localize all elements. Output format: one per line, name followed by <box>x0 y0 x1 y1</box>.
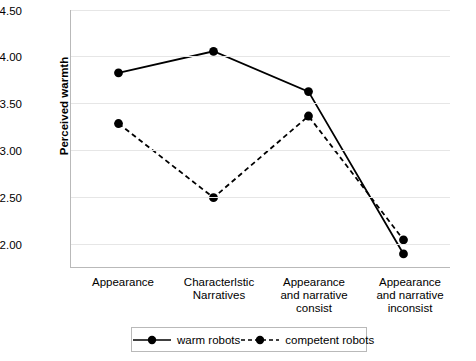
gridline-2.00 <box>71 244 450 245</box>
y-tick-label-2.50: 2.50 <box>0 193 22 203</box>
gridline-3.00 <box>71 150 450 151</box>
data-point <box>304 87 313 96</box>
x-tick-line-1: Characterlstic <box>164 276 274 289</box>
data-point <box>209 47 218 56</box>
x-tick-line-3: consist <box>259 302 369 315</box>
x-tick-line-2: and narrative <box>259 289 369 302</box>
plot-area <box>70 10 450 268</box>
legend-entry-warm-robots: warm robots <box>132 334 240 346</box>
x-tick-label-appearance-and-narrative-inconsist: Appearance and narrative inconsist <box>355 276 465 315</box>
series-competent-robots <box>114 112 408 245</box>
x-tick-label-appearance-and-narrative-consist: Appearance and narrative consist <box>259 276 369 315</box>
legend-label-competent-robots: competent robots <box>285 334 374 346</box>
legend-swatch-solid-line <box>132 334 172 346</box>
data-point <box>399 250 408 259</box>
data-point <box>114 68 123 77</box>
chart-legend: warm robots competent robots <box>131 327 367 352</box>
series-line <box>119 51 404 254</box>
gridline-4.00 <box>71 56 450 57</box>
x-tick-line-1: Appearance <box>259 276 369 289</box>
legend-entry-competent-robots: competent robots <box>240 334 374 346</box>
y-tick-label-3.00: 3.00 <box>0 146 22 156</box>
data-point <box>399 235 408 244</box>
legend-label-warm-robots: warm robots <box>177 334 240 346</box>
x-tick-label-appearance: Appearance <box>68 276 178 289</box>
legend-swatch-dashed-line <box>240 334 280 346</box>
chart-container: Perceived warmth 4.50 4.00 3.50 3.00 2.5… <box>0 0 476 361</box>
y-tick-label-3.50: 3.50 <box>0 99 22 109</box>
gridline-2.50 <box>71 197 450 198</box>
series-plot <box>71 10 451 268</box>
y-tick-label-4.00: 4.00 <box>0 52 22 62</box>
y-tick-label-4.50: 4.50 <box>0 6 22 16</box>
data-point <box>114 119 123 128</box>
gridline-4.50 <box>71 10 450 11</box>
x-tick-label-characteristic-narratives: Characterlstic Narratives <box>164 276 274 302</box>
data-point <box>304 112 313 121</box>
y-axis-title: Perceived warmth <box>58 36 70 176</box>
y-tick-label-2.00: 2.00 <box>0 240 22 250</box>
x-tick-line-2: Narratives <box>164 289 274 302</box>
x-tick-line-1: Appearance <box>355 276 465 289</box>
series-warm-robots <box>114 47 408 258</box>
x-tick-line-1: Appearance <box>68 276 178 289</box>
gridline-3.50 <box>71 103 450 104</box>
series-line <box>119 116 404 240</box>
x-tick-line-3: inconsist <box>355 302 465 315</box>
x-tick-line-2: and narrative <box>355 289 465 302</box>
